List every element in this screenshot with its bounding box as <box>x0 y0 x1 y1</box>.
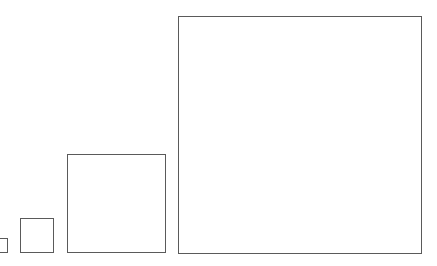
square-smallest <box>0 238 8 253</box>
square-medium <box>67 154 166 253</box>
square-small <box>20 218 54 253</box>
square-largest <box>178 16 422 254</box>
